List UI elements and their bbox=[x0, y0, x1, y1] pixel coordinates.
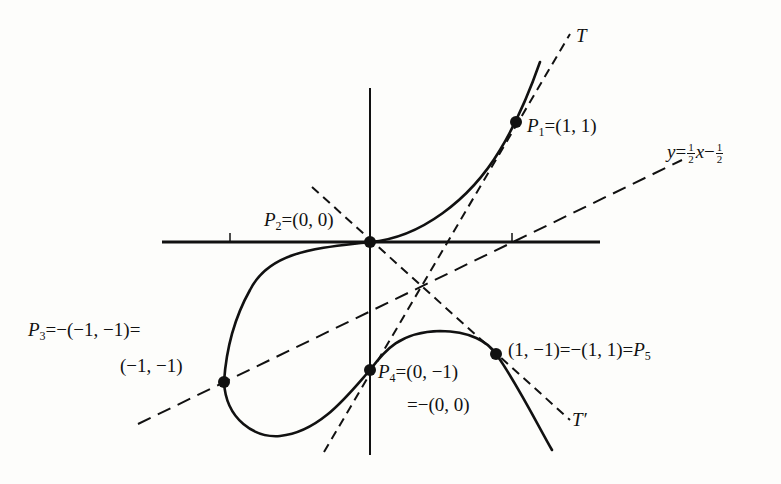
eq-x: x bbox=[696, 141, 704, 162]
P4-text-1: =(0, −1) bbox=[396, 361, 459, 382]
point-P4 bbox=[364, 364, 376, 376]
P3-text-2: (−1, −1) bbox=[120, 355, 183, 376]
label-P4-line1: P4=(0, −1) bbox=[378, 362, 458, 384]
P4-letter: P bbox=[378, 361, 390, 382]
point-P5 bbox=[490, 348, 502, 360]
point-P2 bbox=[364, 236, 376, 248]
P3-letter: P bbox=[28, 319, 40, 340]
curve-branch-upper bbox=[370, 62, 540, 242]
label-T-prime-text: T′ bbox=[572, 409, 587, 430]
point-P1 bbox=[510, 116, 522, 128]
P1-letter: P bbox=[527, 115, 539, 136]
eq-minus: − bbox=[704, 141, 715, 162]
label-T: T bbox=[576, 26, 587, 45]
label-P2: P2=(0, 0) bbox=[264, 210, 333, 232]
label-P4-line2: =−(0, 0) bbox=[407, 395, 470, 414]
fraction-half-2: 12 bbox=[716, 142, 724, 165]
eq-equals: = bbox=[675, 141, 686, 162]
P1-coords: =(1, 1) bbox=[545, 115, 597, 136]
P4-text-2: =−(0, 0) bbox=[407, 394, 470, 415]
label-P3-line1: P3=−(−1, −1)= bbox=[28, 320, 140, 342]
label-P5: (1, −1)=−(1, 1)=P5 bbox=[508, 340, 651, 362]
elliptic-curve-figure bbox=[0, 0, 781, 484]
P2-letter: P bbox=[264, 209, 276, 230]
P5-letter: P bbox=[633, 339, 645, 360]
P5-sub: 5 bbox=[645, 349, 651, 363]
P3-text-1: =−(−1, −1)= bbox=[46, 319, 141, 340]
P2-coords: =(0, 0) bbox=[282, 209, 334, 230]
frac2-den: 2 bbox=[716, 154, 724, 165]
label-secant-equation: y=12x−12 bbox=[667, 142, 724, 165]
label-T-prime: T′ bbox=[572, 410, 587, 429]
label-T-text: T bbox=[576, 25, 587, 46]
P5-text: (1, −1)=−(1, 1)= bbox=[508, 339, 633, 360]
label-P3-line2: (−1, −1) bbox=[120, 356, 183, 375]
cubic-curve bbox=[224, 62, 552, 450]
line-T-prime bbox=[312, 187, 570, 420]
label-P1: P1=(1, 1) bbox=[527, 116, 596, 138]
fraction-half-1: 12 bbox=[687, 142, 695, 165]
curve-branch-left-loop bbox=[224, 242, 370, 436]
point-P3 bbox=[218, 376, 230, 388]
frac1-den: 2 bbox=[687, 154, 695, 165]
